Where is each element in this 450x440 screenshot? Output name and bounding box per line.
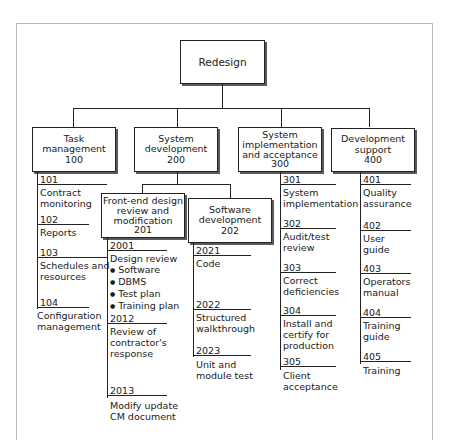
- box-code: 100: [65, 155, 83, 166]
- task-desc-line: Audit/test: [283, 231, 329, 242]
- task-desc-line: Reports: [40, 227, 76, 238]
- task-desc-2001: Design review Software DBMS Test plan Tr…: [107, 253, 179, 312]
- wbs-diagram: Redesign Task management 100 System deve…: [0, 0, 450, 440]
- connector-to-100: [73, 108, 74, 127]
- connector-to-300: [281, 108, 282, 127]
- connector-200-down: [177, 172, 178, 184]
- task-desc-line: management: [37, 321, 101, 332]
- connector-root-down: [222, 84, 223, 108]
- connector-to-202: [230, 184, 231, 198]
- connector-level1-bus: [73, 108, 370, 109]
- task-desc-line: Operators: [363, 276, 410, 287]
- task-desc-line: User: [363, 233, 390, 244]
- task-desc-line: Correct: [283, 275, 339, 286]
- task-code-2012: 2012: [107, 313, 167, 324]
- task-desc-304: Install and certify for production: [280, 318, 334, 351]
- task-desc-line: review: [283, 242, 329, 253]
- task-code-303: 303: [280, 262, 336, 273]
- box-code: 300: [271, 159, 289, 169]
- task-code-104: 104: [37, 297, 89, 308]
- task-desc-line: Design review: [110, 253, 179, 264]
- task-desc-2012: Review of contractor's response: [107, 326, 167, 359]
- task-desc-303: Correct deficiencies: [280, 275, 339, 297]
- connector-200-bus: [142, 184, 231, 185]
- task-code-305: 305: [280, 356, 336, 367]
- task-code-103: 103: [37, 247, 107, 258]
- task-desc-2023: Unit and module test: [193, 359, 253, 381]
- box-front-end-design-201: Front-end design review and modification…: [101, 193, 185, 238]
- box-development-support-400: Development support 400: [331, 128, 415, 172]
- task-desc-line: walkthrough: [196, 323, 255, 334]
- task-desc-405: Training: [360, 365, 401, 376]
- box-task-management-100: Task management 100: [32, 127, 116, 172]
- task-desc-line: Quality: [363, 187, 412, 198]
- task-code-101: 101: [37, 174, 107, 185]
- task-desc-line: module test: [196, 370, 253, 381]
- connector-to-201: [142, 184, 143, 193]
- box-software-development-202: Software development 202: [188, 198, 272, 243]
- task-desc-line: implementation: [283, 198, 358, 209]
- bullet-training-plan: Training plan: [110, 300, 179, 312]
- bullet-test-plan: Test plan: [110, 288, 179, 300]
- task-desc-line: Training: [363, 320, 401, 331]
- root-box-redesign: Redesign: [180, 40, 265, 84]
- task-desc-404: Training guide: [360, 320, 401, 342]
- task-desc-2022: Structured walkthrough: [193, 312, 255, 334]
- task-desc-302: Audit/test review: [280, 231, 329, 253]
- task-code-403: 403: [360, 263, 411, 274]
- box-code: 200: [167, 155, 185, 166]
- task-desc-line: Unit and: [196, 359, 253, 370]
- task-desc-line: guide: [363, 244, 390, 255]
- task-desc-line: Structured: [196, 312, 255, 323]
- task-desc-305: Client acceptance: [280, 370, 338, 392]
- task-code-102: 102: [37, 214, 89, 225]
- task-desc-line: production: [283, 340, 334, 351]
- task-code-402: 402: [360, 220, 411, 231]
- root-label: Redesign: [198, 57, 246, 68]
- task-desc-line: guide: [363, 331, 401, 342]
- task-code-2013: 2013: [107, 385, 167, 396]
- task-desc-line: deficiencies: [283, 286, 339, 297]
- box-code: 202: [221, 226, 239, 237]
- task-desc-line: manual: [363, 287, 410, 298]
- task-code-404: 404: [360, 307, 411, 318]
- task-desc-line: Schedules and: [40, 260, 110, 271]
- task-desc-line: resources: [40, 271, 110, 282]
- task-desc-line: certify for: [283, 329, 334, 340]
- task-desc-301: System implementation: [280, 187, 358, 209]
- task-code-301: 301: [280, 174, 336, 185]
- task-desc-line: assurance: [363, 198, 412, 209]
- connector-to-200: [177, 108, 178, 127]
- task-desc-line: CM document: [110, 411, 178, 422]
- task-desc-line: contractor's: [110, 337, 167, 348]
- box-system-implementation-300: System implementation and acceptance 300: [238, 127, 322, 172]
- task-desc-line: Install and: [283, 318, 334, 329]
- task-desc-2013: Modify update CM document: [107, 400, 178, 422]
- task-desc-line: response: [110, 348, 167, 359]
- task-code-2022: 2022: [193, 299, 251, 310]
- task-code-405: 405: [360, 351, 411, 362]
- task-code-2023: 2023: [193, 345, 251, 356]
- bullet-dbms: DBMS: [110, 276, 179, 288]
- task-desc-line: Modify update: [110, 400, 178, 411]
- task-code-2001: 2001: [107, 240, 167, 251]
- box-system-development-200: System development 200: [134, 127, 218, 172]
- task-desc-line: Contract: [40, 187, 92, 198]
- connector-to-400: [369, 108, 370, 127]
- task-desc-line: Training: [363, 365, 401, 376]
- task-desc-line: monitoring: [40, 198, 92, 209]
- task-code-2021: 2021: [193, 245, 251, 256]
- task-desc-line: Review of: [110, 326, 167, 337]
- task-desc-402: User guide: [360, 233, 390, 255]
- bullet-software: Software: [110, 264, 179, 276]
- task-code-401: 401: [360, 174, 411, 185]
- box-code: 201: [134, 225, 152, 235]
- task-desc-104: Configuration management: [37, 310, 101, 332]
- task-desc-line: acceptance: [283, 381, 338, 392]
- task-desc-line: Code: [196, 258, 220, 269]
- task-desc-403: Operators manual: [360, 276, 410, 298]
- task-code-302: 302: [280, 218, 336, 229]
- task-desc-line: System: [283, 187, 358, 198]
- task-desc-103: Schedules and resources: [37, 260, 110, 282]
- box-code: 400: [364, 155, 382, 166]
